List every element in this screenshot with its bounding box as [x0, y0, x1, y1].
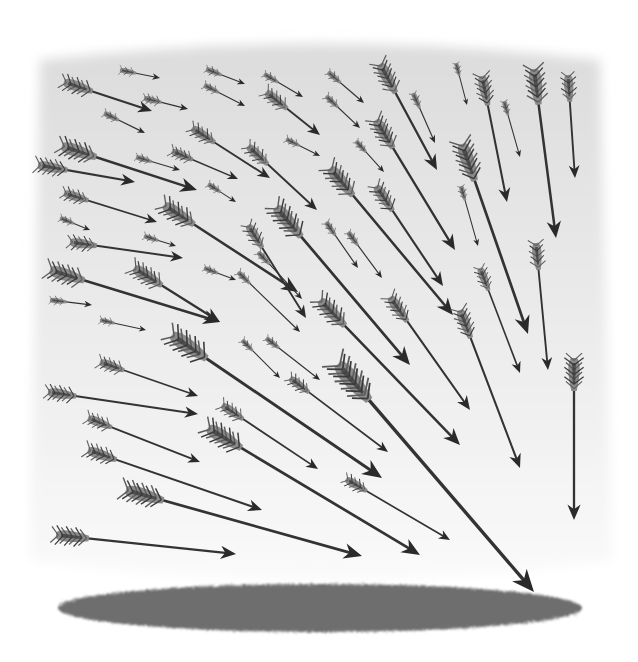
ground-shadow: [58, 584, 582, 632]
arrow-volley-illustration: [0, 0, 638, 662]
